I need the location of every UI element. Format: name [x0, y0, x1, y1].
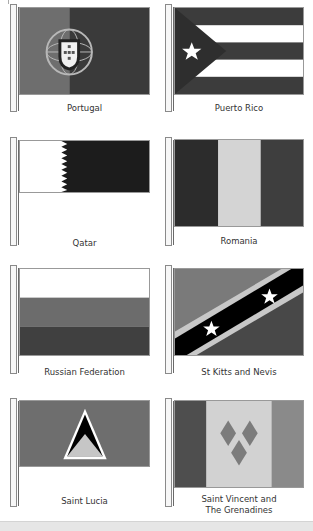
flag-russian-federation — [19, 268, 150, 356]
flagpole — [10, 265, 17, 374]
flagpole — [10, 137, 17, 246]
flag-label-line: Saint Vincent and — [174, 494, 304, 505]
flag-label: Portugal — [19, 103, 150, 114]
flag-saint-vincent-and-the-grenadines — [174, 400, 304, 488]
flag-qatar — [19, 140, 150, 193]
flagpole — [165, 265, 172, 374]
flag-label: St Kitts and Nevis — [174, 367, 304, 378]
flagpole — [10, 4, 17, 112]
flag-label: Saint Vincent and The Grenadines — [174, 494, 304, 516]
flagpole — [165, 4, 172, 112]
flag-label: Qatar — [19, 238, 150, 249]
bottom-divider-bar — [0, 521, 313, 531]
flag-label-line: The Grenadines — [174, 505, 304, 516]
flag-portugal — [19, 7, 150, 95]
flag-st-kitts-and-nevis — [174, 268, 304, 356]
flagpole — [165, 137, 172, 246]
corner-tick-mark — [8, 0, 9, 4]
flag-label: Saint Lucia — [19, 496, 150, 507]
flag-puerto-rico — [174, 7, 304, 95]
flag-label: Puerto Rico — [174, 103, 304, 114]
flagpole — [10, 398, 17, 507]
flag-saint-lucia — [19, 400, 150, 467]
flag-label: Romania — [174, 236, 304, 247]
flagpole — [165, 398, 172, 507]
flag-romania — [174, 139, 304, 227]
flag-label: Russian Federation — [19, 367, 150, 378]
